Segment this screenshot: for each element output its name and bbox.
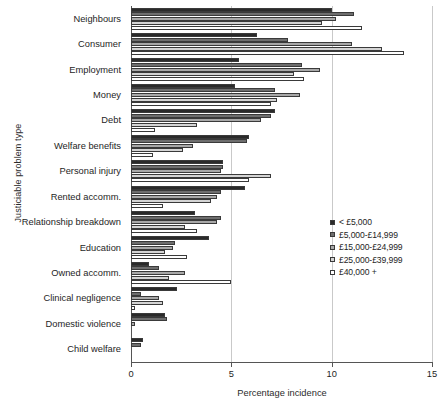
bar [131,169,221,173]
bar-group [131,108,432,133]
bar-group [131,311,432,336]
bar [131,26,362,30]
bar [131,148,183,152]
y-axis-tick-label: Clinical negligence [43,293,121,303]
x-tick-mark [231,363,232,367]
x-gridline [432,6,433,362]
bar [131,220,217,224]
bar [131,84,235,88]
legend-swatch-icon [330,232,335,237]
bar [131,280,231,284]
bar [131,241,175,245]
plot-area [131,6,432,362]
legend-item: £15,000-£24,999 [330,241,442,254]
bar [131,153,153,157]
bar [131,313,165,317]
bar [131,225,185,229]
bar [131,38,288,42]
bar [131,211,195,215]
bar-group [131,82,432,107]
bar [131,33,257,37]
bar [131,42,352,46]
bar [131,47,382,51]
bar [131,306,135,310]
bar [131,287,177,291]
chart-legend: < £5,000£5,000-£14,999£15,000-£24,999£25… [330,216,442,279]
bar [131,88,275,92]
bar [131,178,249,182]
bar [131,17,336,21]
bar [131,114,271,118]
bar [131,338,143,342]
legend-item-label: £25,000-£39,999 [339,255,403,265]
legend-item-label: £5,000-£14,999 [339,230,398,240]
bar [131,139,247,143]
y-axis-tick-label: Debt [101,115,121,125]
bar [131,246,173,250]
bar-group [131,133,432,158]
bar-group [131,286,432,311]
x-axis-title: Percentage incidence [131,388,433,398]
bar [131,118,261,122]
bar-group [131,31,432,56]
bar [131,58,239,62]
x-tick-mark [332,363,333,367]
bar [131,68,320,72]
bar [131,135,249,139]
bar [131,109,275,113]
bar [131,102,271,106]
bar [131,190,221,194]
y-axis-tick-label: Domestic violence [46,319,121,329]
bar [131,21,322,25]
legend-item-label: £15,000-£24,999 [339,242,403,252]
bar [131,317,167,321]
legend-item: £40,000 + [330,266,442,279]
legend-swatch-icon [330,257,335,262]
x-tick-label: 0 [128,369,133,379]
bar [131,301,163,305]
legend-item: £25,000-£39,999 [330,254,442,267]
bar [131,292,141,296]
bar-group [131,6,432,31]
y-axis-tick-label: Consumer [78,39,121,49]
bar [131,186,245,190]
bar [131,296,159,300]
y-axis-tick-label: Owned accomm. [51,268,121,278]
bar [131,12,354,16]
bar [131,236,209,240]
y-axis-tick-label: Employment [69,65,121,75]
bar [131,93,300,97]
bar [131,266,159,270]
legend-item: < £5,000 [330,216,442,229]
bar-group [131,337,432,362]
y-axis-tick-label: Education [80,243,121,253]
bar [131,204,163,208]
y-axis-tick-label: Neighbours [73,14,121,24]
bar-chart: Justiciable problem type NeighboursConsu… [0,0,444,410]
bar [131,271,185,275]
bar [131,322,135,326]
legend-swatch-icon [330,245,335,250]
legend-swatch-icon [330,220,335,225]
legend-item-label: £40,000 + [339,267,377,277]
x-tick-label: 15 [427,369,437,379]
x-tick-label: 5 [229,369,234,379]
y-axis-tick-label: Child welfare [67,344,121,354]
bar [131,199,211,203]
x-tick-label: 10 [326,369,336,379]
legend-item-label: < £5,000 [339,217,372,227]
y-axis-tick-label: Rented accomm. [51,192,121,202]
bar [131,51,404,55]
bar [131,144,193,148]
legend-item: £5,000-£14,999 [330,229,442,242]
y-axis-tick-label: Relationship breakdown [22,217,121,227]
bar [131,216,221,220]
bar [131,77,304,81]
bar [131,98,277,102]
y-axis-category-labels: NeighboursConsumerEmploymentMoneyDebtWel… [0,6,125,362]
bar [131,160,223,164]
bar [131,8,332,12]
bar-group [131,159,432,184]
bar [131,165,223,169]
x-tick-mark [432,363,433,367]
